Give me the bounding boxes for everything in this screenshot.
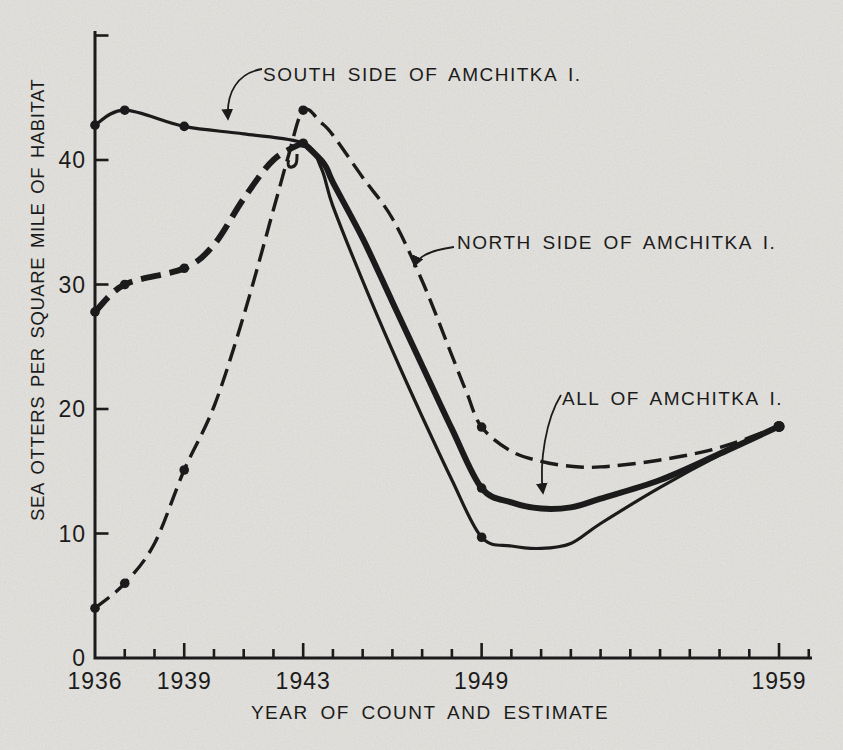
- data-point-1-1939: [179, 264, 189, 274]
- data-point-1-1949: [477, 483, 487, 493]
- x-axis-title: YEAR OF COUNT AND ESTIMATE: [251, 702, 609, 723]
- data-point-1-1936: [90, 307, 100, 317]
- series-label-all-island: ALL OF AMCHITKA I.: [562, 388, 783, 409]
- data-point-2-1939: [179, 465, 189, 475]
- series-label-south-side: SOUTH SIDE OF AMCHITKA I.: [263, 64, 581, 85]
- data-point-0-1936: [90, 120, 100, 130]
- x-tick-label-1936: 1936: [67, 668, 122, 694]
- y-tick-label-30: 30: [58, 272, 86, 298]
- scanned-page: 19361939194319491959010203040 SOUTH SIDE…: [0, 0, 843, 750]
- series-label-north-side: NORTH SIDE OF AMCHITKA I.: [457, 232, 776, 253]
- y-tick-label-40: 40: [58, 147, 86, 173]
- y-tick-label-20: 20: [58, 396, 86, 422]
- x-tick-label-1949: 1949: [454, 668, 509, 694]
- data-point-2-1943: [298, 105, 308, 115]
- y-axis-title: SEA OTTERS PER SQUARE MILE OF HABITAT: [27, 79, 48, 521]
- x-tick-label-1939: 1939: [157, 668, 212, 694]
- y-tick-label-0: 0: [72, 645, 86, 671]
- x-tick-label-1959: 1959: [751, 668, 806, 694]
- data-point-2-1959: [774, 421, 785, 432]
- data-point-2-1936: [90, 603, 100, 613]
- data-point-0-1939: [179, 122, 189, 132]
- data-point-2-1937: [120, 579, 130, 589]
- x-tick-label-1943: 1943: [276, 668, 331, 694]
- sea-otter-density-chart: 19361939194319491959010203040 SOUTH SIDE…: [0, 0, 843, 750]
- data-point-0-1943: [298, 138, 308, 148]
- data-point-0-1937: [120, 105, 130, 115]
- y-tick-label-10: 10: [58, 521, 86, 547]
- data-point-1-1937: [120, 280, 130, 290]
- data-point-2-1949: [477, 422, 487, 432]
- data-point-0-1949: [477, 532, 487, 542]
